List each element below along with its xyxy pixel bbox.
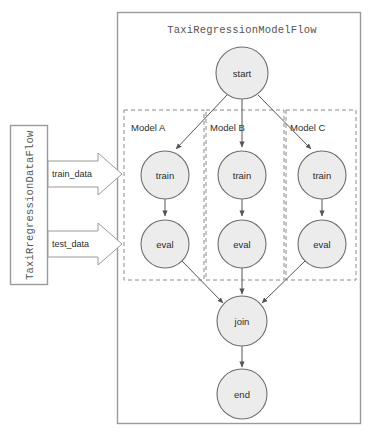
node-train-c[interactable]: train [298, 151, 346, 199]
node-eval-b[interactable]: eval [218, 220, 266, 268]
node-train-c-label: train [313, 170, 331, 181]
node-eval-c-label: eval [313, 239, 330, 250]
node-eval-b-label: eval [233, 239, 250, 250]
flow-diagram-svg: TaxiRegressionModelFlow Model A Model B … [0, 0, 370, 434]
diagram-stage: TaxiRegressionModelFlow Model A Model B … [0, 0, 370, 434]
node-eval-c[interactable]: eval [298, 220, 346, 268]
node-join[interactable]: join [217, 296, 267, 346]
node-eval-a[interactable]: eval [141, 220, 189, 268]
node-train-a[interactable]: train [141, 151, 189, 199]
node-end[interactable]: end [217, 369, 267, 419]
group-model-c-label: Model C [290, 122, 326, 133]
group-model-b-label: Model B [210, 122, 245, 133]
node-start-label: start [233, 68, 252, 79]
node-train-b-label: train [233, 170, 251, 181]
train-data-arrow-label: train_data [52, 169, 92, 179]
node-end-label: end [234, 389, 250, 400]
node-start[interactable]: start [216, 47, 268, 99]
node-train-b[interactable]: train [218, 151, 266, 199]
test-data-arrow-label: test_data [52, 239, 89, 249]
node-train-a-label: train [156, 170, 174, 181]
node-eval-a-label: eval [156, 239, 173, 250]
group-model-a-label: Model A [131, 122, 166, 133]
edge-eval-a-join [182, 261, 223, 303]
edge-eval-c-join [262, 261, 305, 303]
node-join-label: join [234, 316, 250, 327]
data-flow-title: TaxiRregressionDataFlow [24, 130, 36, 280]
model-flow-title: TaxiRegressionModelFlow [167, 24, 317, 36]
